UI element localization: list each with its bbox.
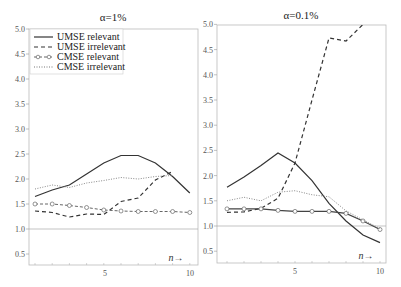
series-line-cmse-relevant [227, 209, 380, 230]
series-line-cmse-irrelevant [35, 176, 173, 190]
panel-alpha-1pct: α=1% 0.51.01.52.02.53.03.54.04.55.0 5 10… [15, 11, 198, 278]
legend: UMSE relevant UMSE irrelevant CMSE relev… [30, 29, 126, 74]
x-axis-label: n→ [169, 252, 184, 263]
y-tick-label: 4.5 [15, 50, 25, 59]
series-line-umse-relevant [227, 153, 380, 243]
chart-figure: α=1% 0.51.01.52.02.53.03.54.04.55.0 5 10… [0, 0, 401, 287]
y-tick-label: 2.0 [15, 175, 25, 184]
data-point-marker [153, 210, 157, 214]
y-tick-label: 3.5 [203, 96, 213, 105]
data-point-marker [310, 209, 314, 213]
y-tick-label: 1.0 [203, 222, 213, 231]
x-tick-label: 10 [186, 269, 194, 278]
panel-title: α=1% [100, 11, 127, 23]
data-point-marker [85, 206, 89, 210]
legend-marker [47, 55, 51, 59]
x-tick-label: 5 [103, 269, 107, 278]
series-group [217, 0, 386, 243]
series-line-umse-irrelevant [227, 0, 380, 212]
data-point-marker [225, 207, 229, 211]
legend-marker [36, 55, 40, 59]
data-point-marker [276, 208, 280, 212]
y-tick-label: 2.5 [15, 150, 25, 159]
panel-title: α=0.1% [284, 9, 319, 21]
x-tick-label: 5 [293, 267, 297, 276]
y-tick-label: 1.0 [15, 225, 25, 234]
y-tick-label: 4.0 [203, 71, 213, 80]
y-tick-label: 3.0 [15, 125, 25, 134]
data-point-marker [259, 207, 263, 211]
y-tick-label: 5.0 [15, 25, 25, 34]
y-tick-label: 2.0 [203, 172, 213, 181]
y-tick-label: 3.5 [15, 100, 25, 109]
y-tick-label: 4.0 [15, 75, 25, 84]
x-tick-label: 10 [376, 267, 384, 276]
data-point-marker [119, 209, 123, 213]
series-line-cmse-irrelevant [227, 191, 380, 229]
panel-alpha-0.1pct: α=0.1% 0.51.01.52.02.53.03.54.04.55.0 5 … [203, 0, 386, 276]
data-point-marker [171, 210, 175, 214]
data-point-marker [33, 202, 37, 206]
data-point-marker [327, 209, 331, 213]
data-point-marker [102, 208, 106, 212]
x-axis-label: n→ [359, 250, 374, 261]
data-point-marker [136, 210, 140, 214]
data-point-marker [67, 204, 71, 208]
data-point-marker [344, 211, 348, 215]
y-tick-label: 4.5 [203, 46, 213, 55]
y-tick-label: 1.5 [203, 197, 213, 206]
y-tick-label: 0.5 [203, 247, 213, 256]
plot-frame [217, 25, 386, 263]
series-group [29, 156, 198, 230]
data-point-marker [50, 202, 54, 206]
y-tick-label: 3.0 [203, 121, 213, 130]
data-point-marker [188, 211, 192, 215]
y-tick-label: 5.0 [203, 20, 213, 29]
legend-label: CMSE irrelevant [57, 61, 125, 72]
y-tick-label: 1.5 [15, 200, 25, 209]
data-point-marker [293, 209, 297, 213]
y-tick-label: 0.5 [15, 250, 25, 259]
y-tick-label: 2.5 [203, 146, 213, 155]
data-point-marker [242, 207, 246, 211]
